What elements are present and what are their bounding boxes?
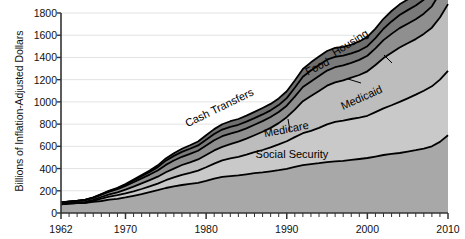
x-tick-label: 2010 bbox=[418, 223, 465, 235]
x-tick-label: 2000 bbox=[337, 223, 397, 235]
series-label-social-security: Social Security bbox=[256, 148, 329, 160]
x-tick-label: 1962 bbox=[31, 223, 91, 235]
x-axis-ticks bbox=[61, 213, 448, 219]
stacked-area-chart: Billions of Inflation-Adjusted Dollars 1… bbox=[0, 0, 465, 239]
plot-area: Social SecurityMedicareMedicaidCash Tran… bbox=[0, 0, 465, 239]
x-tick-label: 1990 bbox=[257, 223, 317, 235]
x-tick-label: 1980 bbox=[176, 223, 236, 235]
x-tick-label: 1970 bbox=[96, 223, 156, 235]
